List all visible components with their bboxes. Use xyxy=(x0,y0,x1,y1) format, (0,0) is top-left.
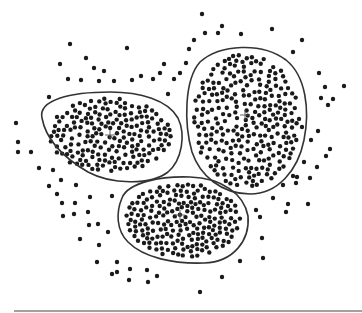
noise-point xyxy=(220,24,224,28)
noise-point xyxy=(238,259,242,263)
noise-point xyxy=(162,62,166,66)
noise-point xyxy=(97,79,101,83)
noise-point xyxy=(60,201,64,205)
noise-point xyxy=(306,202,310,206)
noise-point xyxy=(258,215,262,219)
noise-point xyxy=(192,38,196,42)
noise-point xyxy=(286,202,290,206)
noise-point xyxy=(95,260,99,264)
noise-point xyxy=(184,61,188,65)
noise-point xyxy=(58,62,62,66)
noise-point xyxy=(198,290,202,294)
noise-point xyxy=(271,196,275,200)
noise-point xyxy=(319,96,323,100)
noise-point xyxy=(37,166,41,170)
cluster-bottom-points xyxy=(124,182,242,258)
noise-point xyxy=(112,79,116,83)
noise-point xyxy=(146,280,150,284)
noise-point xyxy=(260,236,264,240)
noise-point xyxy=(92,66,96,70)
noise-point xyxy=(166,92,170,96)
noise-point xyxy=(270,27,274,31)
noise-point xyxy=(302,160,306,164)
noise-point xyxy=(342,84,346,88)
noise-point xyxy=(115,270,119,274)
cluster-scatter-plot xyxy=(0,0,362,313)
noise-point xyxy=(16,140,20,144)
noise-point xyxy=(125,46,129,50)
noise-point xyxy=(145,268,149,272)
noise-point xyxy=(139,74,143,78)
noise-point xyxy=(74,183,78,187)
noise-point xyxy=(61,214,65,218)
noise-point xyxy=(309,138,313,142)
noise-point xyxy=(158,71,162,75)
noise-point xyxy=(324,154,328,158)
noise-point xyxy=(326,103,330,107)
noise-point xyxy=(316,129,320,133)
noise-point xyxy=(151,77,155,81)
noise-point xyxy=(86,210,90,214)
cluster-member-points xyxy=(49,53,301,259)
noise-point xyxy=(187,47,191,51)
noise-point xyxy=(128,267,132,271)
noise-point xyxy=(220,275,224,279)
noise-point xyxy=(317,71,321,75)
noise-point xyxy=(295,175,299,179)
clustering-diagram xyxy=(0,0,362,313)
noise-point xyxy=(16,150,20,154)
cluster-bottom-centroid-plus-icon xyxy=(175,210,185,220)
noise-point xyxy=(130,78,134,82)
noise-point xyxy=(47,95,51,99)
noise-point xyxy=(110,194,114,198)
noise-point xyxy=(323,85,327,89)
noise-point xyxy=(59,178,63,182)
noise-point xyxy=(110,272,114,276)
noise-point xyxy=(72,212,76,216)
noise-point xyxy=(284,210,288,214)
noise-point xyxy=(78,237,82,241)
noise-point xyxy=(51,168,55,172)
noise-point xyxy=(102,69,106,73)
noise-point xyxy=(294,181,298,185)
noise-point xyxy=(261,256,265,260)
noise-point xyxy=(84,56,88,60)
noise-point xyxy=(115,260,119,264)
noise-point xyxy=(331,97,335,101)
noise-point xyxy=(172,77,176,81)
noise-point xyxy=(73,201,77,205)
noise-point xyxy=(254,208,258,212)
noise-point xyxy=(281,183,285,187)
noise-point xyxy=(216,31,220,35)
noise-point xyxy=(291,50,295,54)
noise-point xyxy=(66,77,70,81)
noise-point xyxy=(155,274,159,278)
noise-point xyxy=(315,165,319,169)
noise-point xyxy=(87,223,91,227)
noise-point xyxy=(300,38,304,42)
noise-point xyxy=(127,278,131,282)
noise-point xyxy=(96,222,100,226)
noise-point xyxy=(55,192,59,196)
noise-point xyxy=(47,184,51,188)
noise-point xyxy=(88,195,92,199)
noise-point xyxy=(14,121,18,125)
cluster-right-points xyxy=(192,53,301,188)
noise-point xyxy=(79,78,83,82)
noise-point xyxy=(328,147,332,151)
noise-point xyxy=(68,42,72,46)
noise-point xyxy=(291,174,295,178)
noise-point xyxy=(178,71,182,75)
noise-point xyxy=(308,176,312,180)
noise-point xyxy=(29,150,33,154)
noise-point xyxy=(200,12,204,16)
noise-point xyxy=(300,125,304,129)
noise-point xyxy=(203,31,207,35)
noise-point xyxy=(106,230,110,234)
noise-point xyxy=(239,32,243,36)
noise-point xyxy=(97,243,101,247)
